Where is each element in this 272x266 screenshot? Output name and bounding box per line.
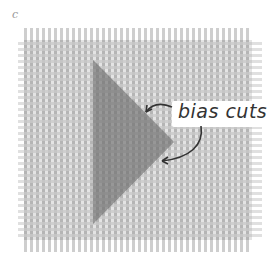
panel-label: c (12, 8, 18, 21)
bias-cuts-label: bias cuts (178, 100, 267, 122)
figure-panel: c bias cuts (0, 0, 272, 266)
woven-fabric-diagram (0, 0, 272, 266)
